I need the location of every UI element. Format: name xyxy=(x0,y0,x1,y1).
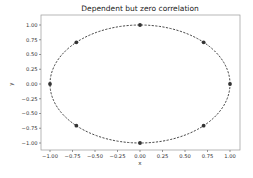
x-tick-label: −0.25 xyxy=(110,153,126,159)
data-markers xyxy=(48,23,232,145)
data-point xyxy=(228,82,232,86)
x-tick-label: −0.50 xyxy=(87,153,103,159)
data-point xyxy=(48,82,52,86)
x-tick-label: 0.00 xyxy=(134,153,146,159)
y-tick-label: 0.50 xyxy=(26,51,38,57)
x-tick-label: 0.25 xyxy=(157,153,169,159)
data-point xyxy=(74,124,78,128)
x-axis-label: x xyxy=(138,160,142,166)
data-point xyxy=(74,40,78,44)
y-axis-label: y xyxy=(8,82,15,86)
data-point xyxy=(138,141,142,145)
data-point xyxy=(202,40,206,44)
y-tick-label: −0.25 xyxy=(22,96,38,102)
y-axis-ticks: 1.000.750.500.250.00−0.25−0.50−0.75−1.00 xyxy=(22,22,41,146)
y-tick-label: −0.50 xyxy=(22,110,38,116)
x-tick-label: 0.50 xyxy=(179,153,191,159)
y-tick-label: 0.00 xyxy=(26,81,38,87)
x-axis-ticks: −1.00−0.75−0.50−0.250.000.250.500.751.00 xyxy=(42,150,236,159)
chart: Dependent but zero correlation −1.00−0.7… xyxy=(0,0,253,178)
data-point xyxy=(138,23,142,27)
y-tick-label: −1.00 xyxy=(22,140,38,146)
x-tick-label: −1.00 xyxy=(42,153,58,159)
data-point xyxy=(202,124,206,128)
x-tick-label: 0.75 xyxy=(202,153,214,159)
plot-frame xyxy=(41,15,240,150)
y-tick-label: −0.75 xyxy=(22,125,38,131)
x-tick-label: −0.75 xyxy=(65,153,81,159)
y-tick-label: 0.75 xyxy=(26,37,38,43)
y-tick-label: 1.00 xyxy=(26,22,38,28)
y-tick-label: 0.25 xyxy=(26,66,38,72)
chart-title: Dependent but zero correlation xyxy=(81,4,199,13)
x-tick-label: 1.00 xyxy=(224,153,236,159)
